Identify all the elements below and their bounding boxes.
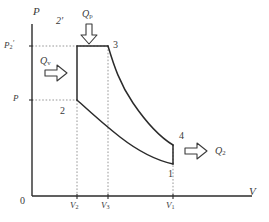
xtick-label-v1: V1 bbox=[166, 201, 175, 210]
heat-label-qv: Qv bbox=[40, 56, 51, 67]
state-label-2: 2 bbox=[60, 106, 65, 116]
q2-arrow-right-icon bbox=[185, 143, 207, 159]
process-3-to-4-expansion bbox=[108, 46, 173, 145]
ytick-label-p-base: P bbox=[13, 93, 19, 103]
pv-diagram-figure: P V 0 P2′ P V2 V3 V1 2′ 3 2 4 1 Qv Qp Q2 bbox=[0, 0, 269, 222]
y-axis-label: P bbox=[33, 6, 40, 17]
ytick-label-p2prime: P2′ bbox=[4, 40, 14, 50]
state-label-2prime: 2′ bbox=[56, 16, 63, 26]
state-label-3: 3 bbox=[113, 40, 118, 50]
qv-arrow-right-icon bbox=[45, 65, 67, 81]
heat-label-q2: Q2 bbox=[215, 146, 226, 157]
diagram-canvas bbox=[0, 0, 269, 222]
state-label-4: 4 bbox=[179, 131, 184, 141]
axis-group bbox=[32, 24, 252, 196]
process-1-to-2-compression bbox=[77, 100, 173, 164]
xtick-label-v2: V2 bbox=[70, 201, 79, 210]
origin-label: 0 bbox=[20, 196, 25, 206]
heat-label-qv-sub: v bbox=[47, 59, 50, 66]
guideline-group bbox=[32, 46, 173, 196]
state-label-1: 1 bbox=[168, 169, 173, 179]
xtick-label-v1-sub: 1 bbox=[172, 204, 175, 210]
xtick-label-v3-sub: 3 bbox=[107, 204, 110, 210]
cycle-path-group bbox=[77, 46, 173, 164]
tick-group bbox=[29, 46, 173, 199]
x-axis-label: V bbox=[249, 186, 256, 197]
xtick-label-v2-sub: 2 bbox=[76, 204, 79, 210]
heat-label-qp: Qp bbox=[82, 9, 93, 20]
xtick-label-v3: V3 bbox=[101, 201, 110, 210]
heat-label-qp-sub: p bbox=[89, 12, 92, 19]
heat-label-q2-sub: 2 bbox=[222, 149, 225, 156]
qp-arrow-down-icon bbox=[81, 24, 97, 44]
ytick-label-p2prime-prime: ′ bbox=[13, 39, 15, 48]
ytick-label-p: P bbox=[13, 94, 19, 103]
